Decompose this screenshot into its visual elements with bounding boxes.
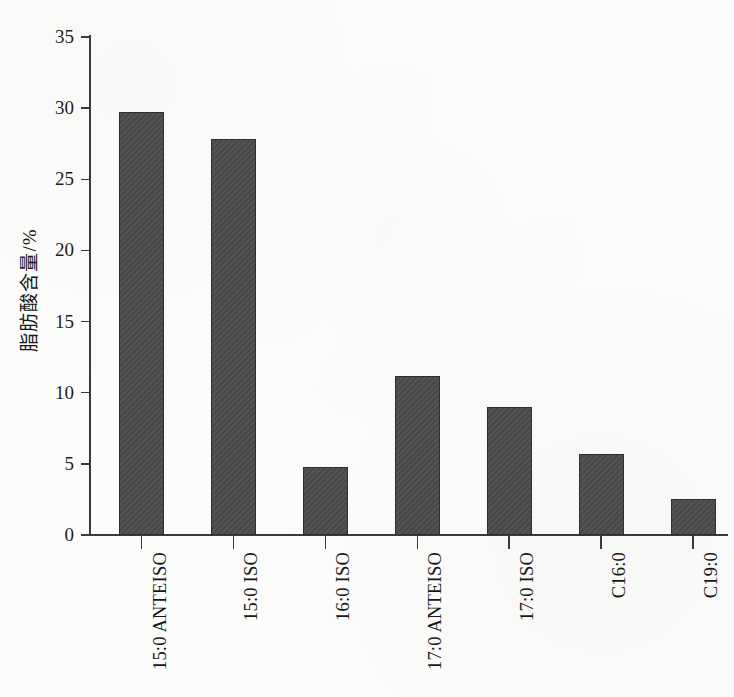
bar	[211, 139, 256, 535]
x-axis-tick-label: 15:0 ANTEISO	[150, 552, 171, 670]
y-axis-tick-label: 35	[16, 26, 74, 48]
x-axis-tick	[692, 536, 694, 549]
bar	[487, 407, 532, 535]
y-axis-tick-label: 0	[16, 524, 74, 546]
x-axis-tick-label: 17:0 ANTEISO	[425, 552, 446, 670]
y-axis-tick-label: 25	[16, 168, 74, 190]
y-axis-tick-label: 20	[16, 239, 74, 261]
x-axis-tick-label: C16:0	[609, 552, 630, 598]
y-axis-tick	[81, 179, 89, 181]
y-axis-tick	[81, 392, 89, 394]
y-axis-tick-label: 10	[16, 382, 74, 404]
bar	[395, 376, 440, 535]
bar	[303, 467, 348, 535]
x-axis-tick-label: 15:0 ISO	[241, 552, 262, 621]
y-axis-tick	[81, 250, 89, 252]
y-axis-tick-label: 5	[16, 453, 74, 475]
y-axis-line	[89, 35, 91, 536]
y-axis-tick-label: 15	[16, 311, 74, 333]
x-axis-tick-label: 17:0 ISO	[517, 552, 538, 621]
bar	[671, 499, 716, 535]
bar	[579, 454, 624, 535]
x-axis-tick	[141, 536, 143, 549]
x-axis-tick	[600, 536, 602, 549]
x-axis-tick-label: 16:0 ISO	[333, 552, 354, 621]
y-axis-tick	[81, 463, 89, 465]
y-axis-tick	[81, 534, 89, 536]
x-axis-tick	[233, 536, 235, 549]
y-axis-tick	[81, 321, 89, 323]
x-axis-tick-label: C19:0	[701, 552, 722, 598]
y-axis-tick	[81, 107, 89, 109]
x-axis-tick	[417, 536, 419, 549]
y-axis-tick	[81, 36, 89, 38]
x-axis-tick	[325, 536, 327, 549]
x-axis-tick	[508, 536, 510, 549]
y-axis-tick-label: 30	[16, 97, 74, 119]
bar	[119, 112, 164, 535]
bar-chart-figure: 脂肪酸含量/% 05101520253035 15:0 ANTEISO15:0 …	[0, 0, 734, 697]
